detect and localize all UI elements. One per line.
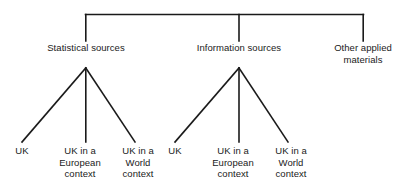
leaf-node-information-european-context: UK in a European context — [205, 145, 261, 180]
branch-line-info-world — [239, 68, 288, 142]
hierarchy-diagram: Statistical sources Information sources … — [0, 0, 406, 196]
node-information-sources: Information sources — [169, 42, 309, 54]
branch-line-stat-uk — [22, 68, 86, 142]
leaf-node-statistical-european-context: UK in a European context — [52, 145, 108, 180]
branch-line-info-uk — [175, 68, 239, 142]
leaf-node-statistical-uk: UK — [2, 145, 42, 157]
leaf-node-information-world-context: UK in a World context — [263, 145, 319, 180]
node-other-applied-materials: Other applied materials — [318, 42, 406, 65]
node-statistical-sources: Statistical sources — [16, 42, 156, 54]
branch-line-stat-world — [86, 68, 135, 142]
leaf-node-information-uk: UK — [155, 145, 195, 157]
